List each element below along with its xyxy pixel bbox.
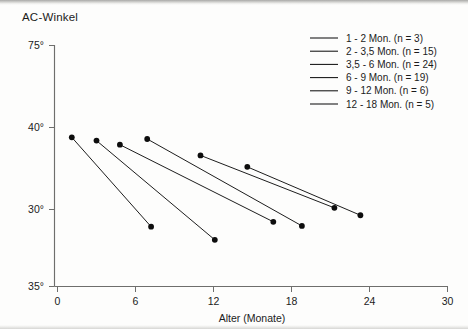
y-tick-label: 30° — [28, 203, 44, 215]
legend-label: 3,5 - 6 Mon. (n = 24) — [346, 59, 437, 70]
series-line — [120, 145, 273, 222]
x-tick-label: 30 — [442, 295, 454, 307]
series-group — [69, 134, 154, 229]
x-tick-label: 6 — [133, 295, 139, 307]
series-line — [247, 167, 360, 215]
data-point — [69, 134, 75, 140]
legend-label: 1 - 2 Mon. (n = 3) — [346, 33, 423, 44]
legend-label: 6 - 9 Mon. (n = 19) — [346, 72, 429, 83]
series-group — [244, 164, 363, 218]
y-axis-ticks — [49, 46, 55, 287]
series-group — [144, 136, 304, 229]
data-point — [117, 142, 123, 148]
series-line — [201, 155, 335, 207]
x-tick-label: 0 — [55, 295, 61, 307]
y-tick-label: 75° — [28, 39, 44, 51]
data-point — [299, 223, 305, 229]
data-point — [94, 138, 100, 144]
series-layer — [69, 134, 363, 242]
series-group — [198, 152, 338, 210]
data-point — [332, 205, 338, 211]
chart-legend: 1 - 2 Mon. (n = 3)2 - 3,5 Mon. (n = 15)3… — [310, 33, 437, 110]
x-tick-label: 24 — [364, 295, 376, 307]
chart-plot: 75° 40° 30° 35° 0 6 12 18 24 30 Alter (M… — [0, 0, 468, 329]
legend-label: 9 - 12 Mon. (n = 6) — [346, 85, 429, 96]
data-point — [358, 212, 364, 218]
x-tick-label: 18 — [286, 295, 298, 307]
series-line — [72, 137, 151, 226]
data-point — [244, 164, 250, 170]
series-line — [147, 139, 302, 226]
data-point — [198, 152, 204, 158]
data-point — [212, 237, 218, 243]
y-tick-label: 35° — [28, 280, 44, 292]
y-tick-label: 40° — [28, 121, 44, 133]
data-point — [144, 136, 150, 142]
series-group — [117, 142, 276, 225]
data-point — [270, 219, 276, 225]
y-axis-tick-labels: 75° 40° 30° 35° — [28, 39, 44, 292]
series-line — [97, 141, 215, 240]
legend-label: 2 - 3,5 Mon. (n = 15) — [346, 46, 437, 57]
x-axis-tick-labels: 0 6 12 18 24 30 — [55, 295, 454, 307]
x-axis-ticks — [58, 287, 448, 293]
figure-container: AC-Winkel 75° 40° 30° 35° 0 — [0, 0, 468, 329]
data-point — [148, 224, 154, 230]
legend-label: 12 - 18 Mon. (n = 5) — [346, 99, 434, 110]
x-axis-title: Alter (Monate) — [219, 312, 286, 324]
x-tick-label: 12 — [208, 295, 220, 307]
